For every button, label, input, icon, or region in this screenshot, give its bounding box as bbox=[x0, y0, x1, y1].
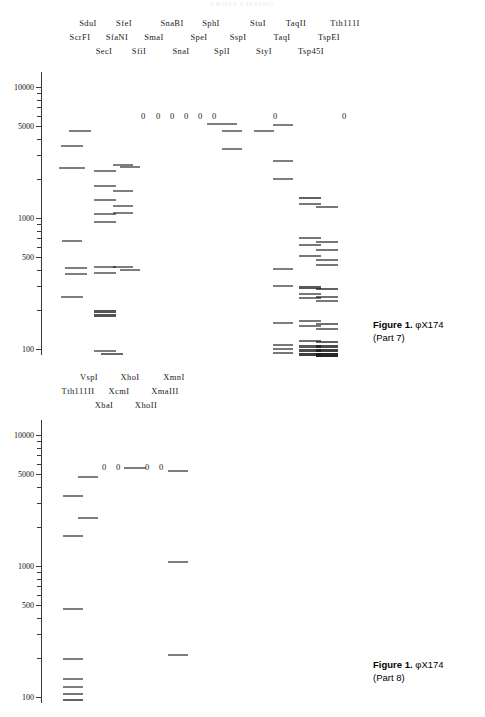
no-cut-zero-marker: 0 bbox=[198, 111, 202, 121]
enzyme-label-spli: SplI bbox=[214, 46, 230, 56]
no-cut-zero-marker: 0 bbox=[145, 462, 149, 472]
caption-part: (Part 7) bbox=[373, 331, 444, 344]
gel-band bbox=[273, 348, 293, 350]
y-axis-minor-tick bbox=[37, 231, 41, 232]
gel-band bbox=[63, 699, 83, 701]
gel-band bbox=[94, 199, 116, 201]
gel-band bbox=[316, 206, 338, 208]
no-cut-zero-marker: 0 bbox=[102, 462, 106, 472]
gel-panel-part8: VspIXhoIXmnI Tth111IIXcmIXmaIII XbaIXhoI… bbox=[0, 362, 485, 717]
no-cut-zero-marker: 0 bbox=[170, 111, 174, 121]
y-axis-tick-label-100: 100 bbox=[0, 693, 34, 702]
gel-band bbox=[316, 341, 338, 343]
gel-band bbox=[63, 535, 83, 537]
y-axis-minor-tick bbox=[37, 93, 41, 94]
y-axis-major-tick bbox=[36, 126, 42, 127]
y-axis-minor-tick bbox=[37, 464, 41, 465]
enzyme-label-taqi: TaqI bbox=[273, 32, 290, 42]
gel-band bbox=[61, 296, 83, 298]
caption-organism: φX174 bbox=[415, 659, 443, 670]
gel-band bbox=[61, 145, 83, 147]
gel-band bbox=[273, 160, 293, 162]
y-axis-minor-tick bbox=[37, 634, 41, 635]
gel-panel-part7: SduISfeISnaBISphIStuITaqIITth111I ScrFIS… bbox=[0, 0, 485, 365]
gel-band bbox=[65, 267, 87, 269]
gel-band bbox=[59, 167, 85, 169]
no-cut-zero-marker: 0 bbox=[184, 111, 188, 121]
gel-band bbox=[299, 197, 321, 199]
gel-band bbox=[120, 269, 140, 271]
enzyme-label-tth111i: Tth111I bbox=[330, 18, 360, 28]
y-axis-tick-label-100: 100 bbox=[0, 345, 34, 354]
gel-band bbox=[94, 185, 116, 187]
gel-band bbox=[222, 130, 242, 132]
gel-band bbox=[273, 344, 293, 346]
gel-band bbox=[78, 476, 98, 478]
enzyme-label-sspi: SspI bbox=[230, 32, 247, 42]
gel-band bbox=[316, 264, 338, 266]
gel-band bbox=[316, 349, 338, 352]
gel-band bbox=[63, 693, 83, 695]
y-axis-major-tick bbox=[36, 605, 42, 606]
enzyme-label-seci: SecI bbox=[96, 46, 113, 56]
y-axis-minor-tick bbox=[37, 503, 41, 504]
enzyme-label-tth111ii: Tth111II bbox=[62, 386, 95, 396]
gel-band bbox=[222, 148, 242, 150]
y-axis-minor-tick bbox=[37, 527, 41, 528]
enzyme-label-sphi: SphI bbox=[202, 18, 220, 28]
gel-band bbox=[101, 353, 123, 355]
gel-band bbox=[316, 259, 338, 261]
gel-band bbox=[63, 608, 83, 610]
y-axis-minor-tick bbox=[37, 310, 41, 311]
gel-band bbox=[168, 654, 188, 656]
enzyme-label-xhoi: XhoI bbox=[120, 372, 139, 382]
y-axis-tick-label-500: 500 bbox=[0, 253, 34, 262]
y-axis-major-tick bbox=[36, 257, 42, 258]
no-cut-zero-marker: 0 bbox=[116, 462, 120, 472]
y-axis-tick-label-5000: 5000 bbox=[0, 122, 34, 131]
gel-band bbox=[113, 266, 133, 268]
enzyme-label-vspi: VspI bbox=[80, 372, 98, 382]
y-axis-minor-tick bbox=[37, 107, 41, 108]
gel-band bbox=[113, 190, 133, 192]
y-axis-minor-tick bbox=[37, 286, 41, 287]
gel-band bbox=[299, 255, 321, 257]
enzyme-label-tspei: TspEI bbox=[318, 32, 340, 42]
enzyme-label-snabi: SnaBI bbox=[160, 18, 183, 28]
enzyme-label-styi: StyI bbox=[256, 46, 272, 56]
gel-band bbox=[63, 686, 83, 688]
y-axis-minor-tick bbox=[37, 572, 41, 573]
gel-band bbox=[69, 130, 91, 132]
y-axis-major-tick bbox=[36, 435, 42, 436]
gel-band bbox=[78, 517, 98, 519]
gel-band bbox=[273, 178, 293, 180]
gel-band bbox=[273, 352, 293, 354]
enzyme-label-xmaiii: XmaIII bbox=[151, 386, 178, 396]
gel-band bbox=[299, 293, 321, 295]
y-axis-tick-label-5000: 5000 bbox=[0, 470, 34, 479]
gel-band bbox=[94, 170, 116, 172]
gel-band bbox=[273, 322, 293, 324]
gel-band bbox=[94, 310, 116, 313]
no-cut-zero-marker: 0 bbox=[273, 111, 277, 121]
gel-band bbox=[316, 288, 338, 290]
gel-band bbox=[316, 353, 338, 357]
y-axis-minor-tick bbox=[37, 579, 41, 580]
gel-band bbox=[168, 561, 188, 563]
y-axis-line bbox=[41, 420, 42, 703]
gel-band bbox=[316, 300, 338, 302]
gel-band bbox=[120, 166, 140, 168]
gel-band bbox=[299, 244, 321, 246]
enzyme-label-taqii: TaqII bbox=[286, 18, 306, 28]
enzyme-label-xhoii: XhoII bbox=[135, 400, 157, 410]
enzyme-label-sfei: SfeI bbox=[116, 18, 132, 28]
gel-band bbox=[94, 221, 116, 223]
enzyme-label-xmni: XmnI bbox=[163, 372, 184, 382]
enzyme-label-snai: SnaI bbox=[172, 46, 189, 56]
y-axis-minor-tick bbox=[37, 224, 41, 225]
no-cut-zero-marker: 0 bbox=[342, 111, 346, 121]
y-axis-minor-tick bbox=[37, 618, 41, 619]
y-axis-tick-label-1000: 1000 bbox=[0, 561, 34, 570]
gel-band bbox=[316, 345, 338, 348]
gel-band bbox=[94, 314, 116, 317]
